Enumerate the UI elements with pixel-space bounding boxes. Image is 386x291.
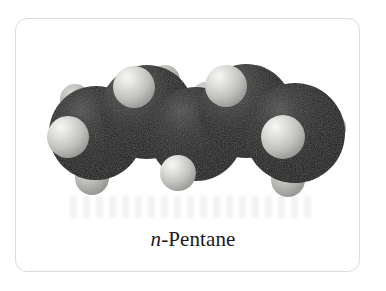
- hydrogen-sphere: [47, 116, 89, 158]
- hydrogen-sphere: [160, 155, 196, 191]
- hydrogen-sphere: [261, 115, 305, 159]
- hydrogen-sphere: [113, 66, 155, 108]
- figure-root: n-Pentane: [0, 0, 386, 291]
- caption-italic-prefix: n: [151, 227, 162, 251]
- caption-rest: -Pentane: [161, 227, 235, 251]
- hydrogen-sphere: [205, 65, 247, 107]
- figure-caption: n-Pentane: [0, 227, 386, 252]
